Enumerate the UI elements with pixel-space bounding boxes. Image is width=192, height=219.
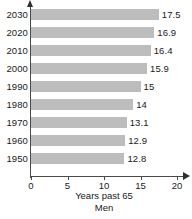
bar-value-label: 17.5 — [162, 9, 181, 21]
x-axis-title: Years past 65 — [31, 190, 177, 201]
bar-value-label: 15.9 — [150, 63, 169, 75]
bar — [31, 27, 154, 38]
bar-row: 201016.4 — [0, 43, 192, 61]
category-label: 1990 — [0, 81, 28, 93]
bar-rows: 203017.5202016.9201016.4200015.919901519… — [0, 0, 192, 176]
bar-value-label: 16.9 — [157, 27, 176, 39]
category-label: 1950 — [0, 153, 28, 165]
bar-row: 197013.1 — [0, 115, 192, 133]
bar — [31, 135, 125, 146]
bar — [31, 63, 147, 74]
bar-value-label: 14 — [136, 99, 147, 111]
bar-value-label: 15 — [144, 81, 155, 93]
bar — [31, 9, 159, 20]
bar-row: 203017.5 — [0, 7, 192, 25]
bar-row: 199015 — [0, 79, 192, 97]
plot-area: 203017.5202016.9201016.4200015.919901519… — [0, 0, 192, 178]
bar-row: 202016.9 — [0, 25, 192, 43]
bar — [31, 153, 124, 164]
category-label: 2010 — [0, 45, 28, 57]
bar-value-label: 13.1 — [130, 117, 149, 129]
category-label: 2030 — [0, 9, 28, 21]
bar — [31, 117, 127, 128]
category-label: 1980 — [0, 99, 28, 111]
category-label: 2020 — [0, 27, 28, 39]
bar-value-label: 16.4 — [154, 45, 173, 57]
bar-value-label: 12.8 — [127, 153, 146, 165]
series-title: Men — [31, 202, 177, 213]
category-label: 1970 — [0, 117, 28, 129]
bar-chart: 203017.5202016.9201016.4200015.919901519… — [0, 0, 192, 219]
bar — [31, 81, 141, 92]
bar-row: 196012.9 — [0, 133, 192, 151]
bar-row: 198014 — [0, 97, 192, 115]
cut-off-caption — [4, 215, 190, 219]
category-label: 1960 — [0, 135, 28, 147]
bar-value-label: 12.9 — [128, 135, 147, 147]
category-label: 2000 — [0, 63, 28, 75]
bar — [31, 99, 133, 110]
bar-row: 195012.8 — [0, 151, 192, 169]
bar-row: 200015.9 — [0, 61, 192, 79]
bar — [31, 45, 151, 56]
